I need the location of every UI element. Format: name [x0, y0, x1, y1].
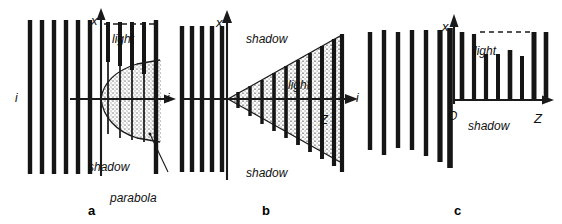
panel-a-shadow-label: shadow: [88, 161, 129, 173]
panel-a-letter: a: [88, 203, 95, 218]
panel-b-light-label: light: [288, 79, 310, 91]
panel-b-z-axis-label: Z: [320, 113, 328, 126]
panel-b-incident-label: i: [167, 92, 170, 104]
shadow-region-parabola: [101, 60, 161, 142]
panel-c: x i light O shadow Z c: [362, 0, 562, 224]
panel-b-shadow-top-label: shadow: [246, 33, 287, 45]
panel-c-light-label: light: [474, 45, 496, 57]
panel-a-incident-label: i: [15, 92, 18, 104]
panel-a-light-label: light: [112, 33, 134, 45]
incident-rays: [370, 28, 450, 168]
panel-c-incident-label: i: [356, 92, 359, 104]
z-axis: [454, 96, 554, 105]
panel-c-drawing: [362, 0, 562, 200]
figure-root: x i light shadow parabola a: [0, 0, 562, 224]
incident-rays: [30, 20, 90, 174]
panel-c-z-axis-label: Z: [534, 112, 542, 125]
panel-c-origin-label: O: [448, 110, 457, 122]
panel-b: x i shadow light shadow Z b: [170, 0, 370, 224]
panel-c-shadow-label: shadow: [468, 120, 509, 132]
panel-a: x i light shadow parabola a: [0, 0, 187, 224]
transmitted-rays: [462, 32, 546, 100]
panel-c-letter: c: [454, 203, 461, 218]
panel-c-x-axis-label: x: [442, 20, 449, 33]
panel-b-shadow-bottom-label: shadow: [246, 167, 287, 179]
panel-b-x-axis-label: x: [216, 16, 223, 29]
panel-a-parabola-label: parabola: [110, 192, 157, 204]
panel-a-x-axis-label: x: [91, 14, 98, 27]
panel-b-letter: b: [262, 203, 270, 218]
